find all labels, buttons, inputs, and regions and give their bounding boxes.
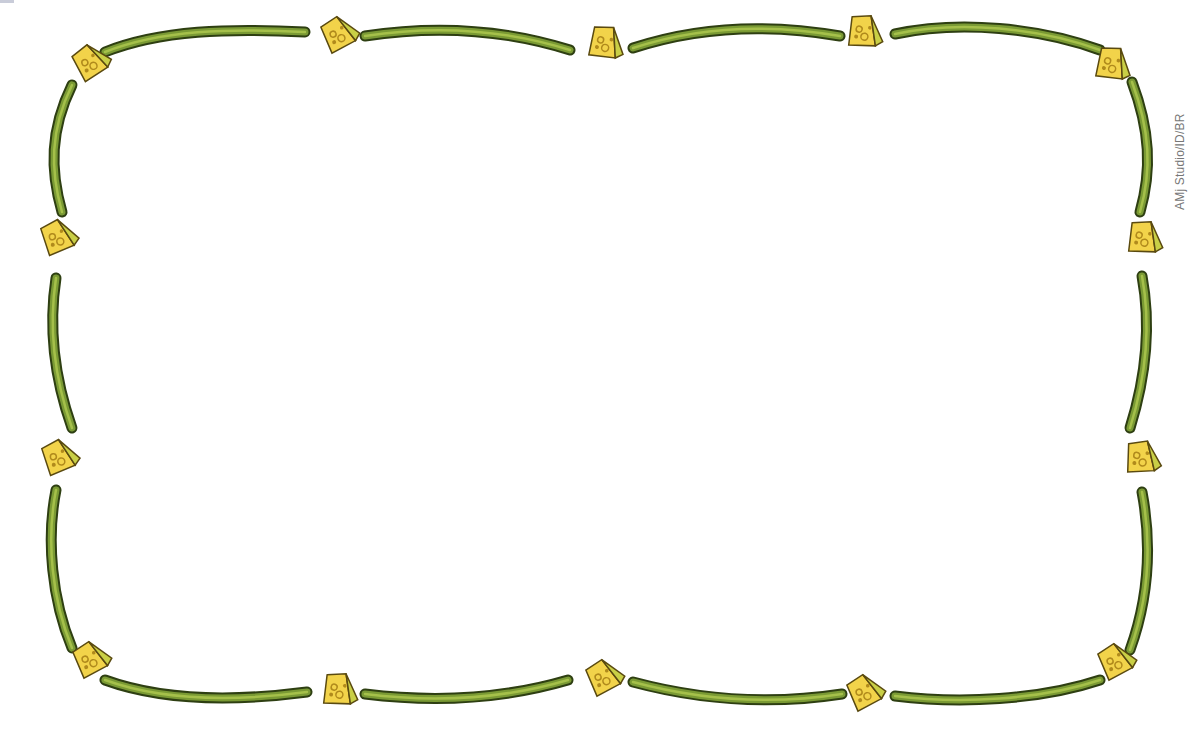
decorative-border	[0, 0, 1198, 753]
cheese-wedge-icon	[41, 436, 82, 476]
cheese-wedge-icon	[1124, 438, 1165, 478]
cheese-wedge-icon	[40, 216, 81, 256]
cheese-wedge-icon	[585, 21, 630, 65]
cheese-wedge-icon	[584, 655, 628, 697]
cheese-wedges	[40, 11, 1169, 712]
cheese-wedge-icon	[319, 12, 363, 54]
cheese-wedge-icon	[845, 670, 889, 712]
photo-credit: AMj Studio/ID/BR	[1173, 113, 1187, 210]
vine-segments	[51, 27, 1147, 700]
cheese-wedge-icon	[320, 669, 364, 711]
cheese-wedge-icon	[1125, 217, 1169, 259]
vine-segment	[895, 27, 1100, 50]
cheese-wedge-icon	[845, 11, 889, 53]
cheese-wedge-icon	[71, 637, 115, 679]
